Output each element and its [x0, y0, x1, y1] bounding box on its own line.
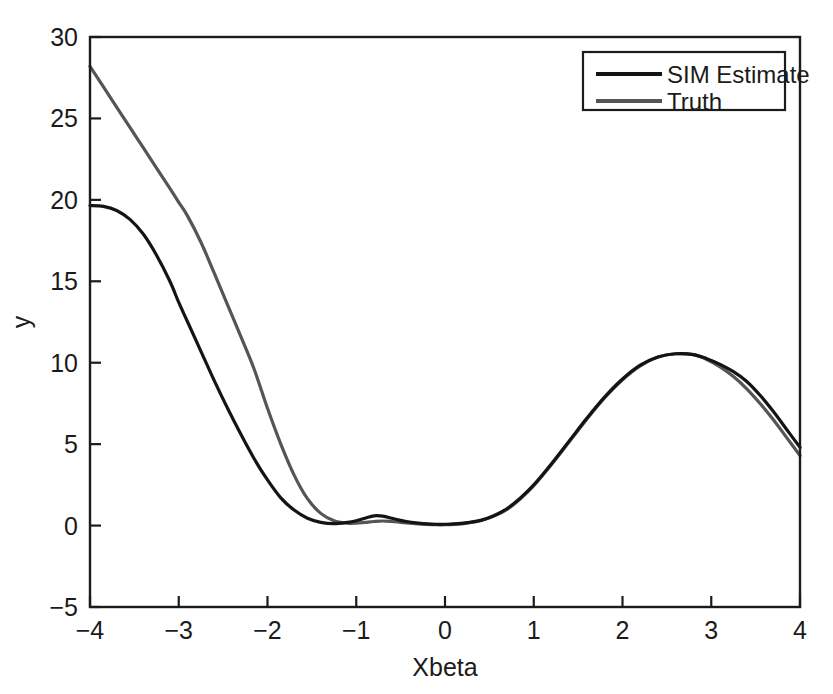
chart-figure: −4−3−2−101234 −5051015202530 Xbeta y SIM…	[0, 0, 833, 694]
y-axis-tick-labels: −5051015202530	[49, 23, 78, 621]
y-tick-label: 5	[64, 430, 78, 458]
plot-background	[90, 37, 800, 607]
x-tick-label: 0	[438, 616, 452, 644]
x-tick-label: 3	[704, 616, 718, 644]
y-tick-label: 20	[50, 186, 78, 214]
x-tick-label: −2	[253, 616, 282, 644]
chart-canvas: −4−3−2−101234 −5051015202530 Xbeta y SIM…	[0, 0, 833, 694]
y-tick-label: 30	[50, 23, 78, 51]
y-tick-label: 15	[50, 267, 78, 295]
y-tick-label: 25	[50, 104, 78, 132]
x-tick-label: 1	[527, 616, 541, 644]
x-tick-label: −4	[76, 616, 105, 644]
x-axis-tick-labels: −4−3−2−101234	[76, 616, 807, 644]
chart-legend: SIM EstimateTruth	[583, 52, 810, 115]
y-tick-label: 10	[50, 349, 78, 377]
y-tick-label: 0	[64, 512, 78, 540]
x-tick-label: −3	[164, 616, 193, 644]
x-tick-label: 4	[793, 616, 807, 644]
x-tick-label: 2	[616, 616, 630, 644]
y-axis-title: y	[7, 315, 35, 328]
legend-label-sim-estimate: SIM Estimate	[667, 61, 810, 88]
x-tick-label: −1	[342, 616, 371, 644]
x-axis-title: Xbeta	[412, 653, 477, 681]
y-tick-label: −5	[49, 593, 78, 621]
legend-label-truth: Truth	[667, 88, 722, 115]
